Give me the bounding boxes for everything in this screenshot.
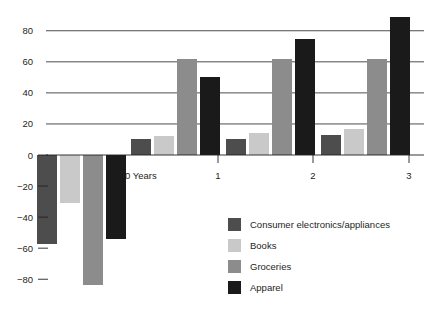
legend-swatch-apparel	[228, 281, 241, 294]
bar	[154, 136, 174, 155]
bar	[226, 139, 246, 155]
bar	[295, 39, 315, 155]
legend-swatch-books	[228, 239, 241, 252]
legend-item: Groceries	[228, 256, 390, 276]
chart-legend: Consumer electronics/appliances Books Gr…	[228, 214, 390, 298]
bar	[367, 59, 387, 155]
y-axis-tick-label: 40	[22, 87, 33, 98]
legend-swatch-groceries	[228, 260, 241, 273]
y-axis-tick-label: −20	[17, 181, 33, 192]
legend-item: Books	[228, 235, 390, 255]
legend-item: Apparel	[228, 277, 390, 297]
legend-label-apparel: Apparel	[250, 282, 283, 293]
bar	[83, 155, 103, 285]
x-axis-tick-label: 2	[310, 170, 315, 181]
bar	[37, 155, 57, 244]
y-axis-tick-label: −60	[17, 243, 33, 254]
y-axis-tick-label: 60	[22, 56, 33, 67]
legend-item: Consumer electronics/appliances	[228, 214, 390, 234]
bar	[131, 139, 151, 155]
x-axis-tick-label: 1	[215, 170, 220, 181]
legend-label-books: Books	[250, 240, 276, 251]
bar	[177, 59, 197, 155]
bar	[60, 155, 80, 203]
bar	[106, 155, 126, 239]
bar	[321, 135, 341, 155]
y-axis-tick-label: 80	[22, 25, 33, 36]
x-axis-tick-label: 0 Years	[125, 170, 157, 181]
bar	[200, 77, 220, 155]
y-axis-tick-label: 20	[22, 118, 33, 129]
y-axis-tick-label: −40	[17, 212, 33, 223]
legend-label-consumer-electronics: Consumer electronics/appliances	[250, 219, 390, 230]
x-axis-tick-label: 3	[406, 170, 411, 181]
y-axis-ticks: 806040200−20−40−60−80	[17, 25, 48, 284]
bar	[249, 133, 269, 155]
legend-label-groceries: Groceries	[250, 261, 291, 272]
y-axis-tick-label: −80	[17, 274, 33, 285]
bar-chart: 806040200−20−40−60−80 0 Years123 Consume…	[0, 0, 429, 309]
bar	[344, 129, 364, 155]
bar	[272, 59, 292, 155]
x-axis-ticks: 0 Years123	[122, 155, 412, 181]
legend-swatch-consumer-electronics	[228, 218, 241, 231]
bar	[390, 17, 410, 155]
y-axis-tick-label: 0	[28, 150, 33, 161]
